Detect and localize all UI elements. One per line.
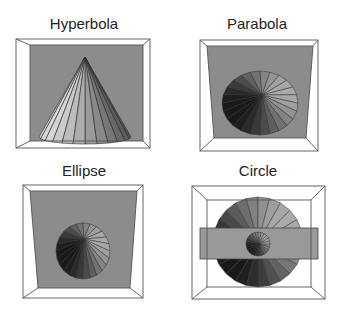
parabola-cone-section	[222, 71, 298, 135]
panel-circle	[192, 186, 325, 299]
conic-sections-figure	[0, 0, 342, 312]
panel-parabola	[200, 40, 318, 151]
panel-hyperbola	[16, 39, 150, 148]
circle-cone-section	[246, 232, 270, 256]
ellipse-cone-section	[56, 223, 110, 279]
panel-ellipse	[23, 185, 143, 298]
